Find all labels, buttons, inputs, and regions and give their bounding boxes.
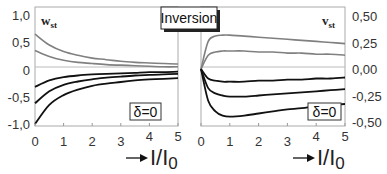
y-tick-label: -1,0: [8, 117, 30, 132]
x-tick-label: 4: [313, 129, 320, 144]
left-y-tick-labels: 1,00,50-0,5-1,0: [8, 8, 30, 132]
x-tick-label: 0: [31, 134, 38, 149]
x-tick-label: 2: [89, 134, 96, 149]
x-tick-label: 5: [341, 129, 348, 144]
left-x-axis-label: I/I0: [126, 145, 178, 173]
right-delta-annotation: δ=0: [313, 104, 337, 120]
x-tick-label: 3: [284, 134, 291, 149]
y-tick-label: -0,25: [352, 89, 382, 104]
right-panel: 0,500,250,00-0,25-0,50 012345 vst δ=0 I/…: [197, 7, 381, 173]
y-tick-label: 1,0: [12, 8, 30, 23]
inversion-label-text: Inversion: [161, 10, 218, 26]
chart-figure: 1,00,50-0,5-1,0 012345 wst δ=0 I/I0 0,50…: [0, 0, 387, 174]
y-tick-label: -0,50: [352, 115, 382, 130]
svg-text:I/I0: I/I0: [317, 145, 345, 173]
right-arrowhead-icon: [307, 154, 315, 162]
right-x-axis-label: I/I0: [293, 145, 345, 173]
y-tick-label: 0,5: [12, 35, 30, 50]
x-tick-label: 3: [117, 134, 124, 149]
inversion-label: Inversion: [161, 7, 220, 32]
x-tick-label: 1: [60, 134, 67, 149]
left-panel: 1,00,50-0,5-1,0 012345 wst δ=0 I/I0: [8, 7, 182, 173]
x-tick-label: 2: [255, 134, 262, 149]
y-tick-label: -0,5: [8, 90, 30, 105]
x-tick-label: 4: [146, 129, 153, 144]
x-tick-label: 5: [174, 129, 181, 144]
y-tick-label: 0,50: [352, 9, 377, 24]
right-y-tick-labels: 0,500,250,00-0,25-0,50: [352, 9, 382, 130]
left-arrowhead-icon: [140, 154, 148, 162]
x-tick-label: 1: [226, 134, 233, 149]
y-tick-label: 0,00: [352, 62, 377, 77]
y-tick-label: 0,25: [352, 36, 377, 51]
svg-text:I/I0: I/I0: [150, 145, 178, 173]
y-tick-label: 0: [23, 63, 30, 78]
left-delta-annotation: δ=0: [134, 104, 158, 120]
x-tick-label: 0: [197, 134, 204, 149]
